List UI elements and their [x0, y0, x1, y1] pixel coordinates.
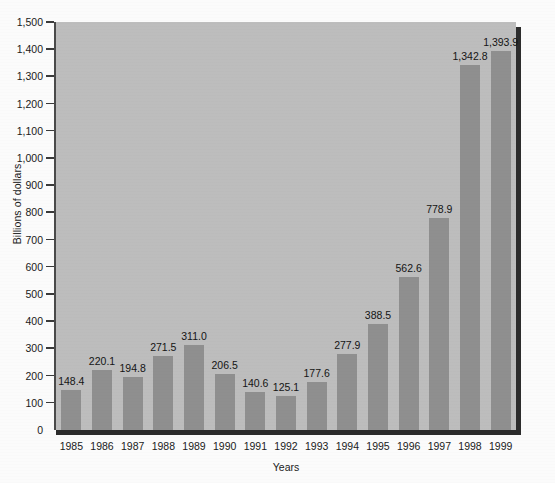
y-axis-tick-mark — [46, 48, 54, 50]
y-axis-tick-mark — [46, 21, 54, 23]
y-axis-tick-mark — [46, 157, 54, 159]
bar — [460, 65, 480, 430]
y-axis-tick-mark — [46, 239, 54, 241]
bar-value-label: 148.4 — [45, 375, 97, 387]
y-axis-tick-label: 1,100 — [17, 125, 43, 137]
bar — [429, 218, 449, 430]
y-axis-tick: 1,200 — [0, 98, 56, 110]
y-axis-tick-mark — [46, 347, 54, 349]
x-axis-title: Years — [56, 461, 516, 473]
y-axis-tick-label: 1,000 — [17, 152, 43, 164]
bar-value-label: 562.6 — [383, 262, 435, 274]
y-axis-tick: 600 — [0, 261, 56, 273]
y-axis-tick: 1,400 — [0, 43, 56, 55]
y-axis-tick: 1,300 — [0, 70, 56, 82]
y-axis-tick: 400 — [0, 315, 56, 327]
bar — [123, 377, 143, 430]
y-axis-tick: 1,100 — [0, 125, 56, 137]
y-axis-tick: 700 — [0, 234, 56, 246]
y-axis-tick: 100 — [0, 397, 56, 409]
y-axis-tick: 500 — [0, 288, 56, 300]
y-axis-tick-mark — [46, 320, 54, 322]
bar-chart: Billions of dollars 01002003004005006007… — [0, 0, 555, 483]
bar — [245, 392, 265, 430]
bar-value-label: 1,393.9 — [475, 36, 527, 48]
bar-value-label: 177.6 — [291, 367, 343, 379]
y-axis-tick-label: 600 — [25, 261, 43, 273]
bar-value-label: 271.5 — [137, 341, 189, 353]
y-axis-tick-label: 1,200 — [17, 98, 43, 110]
y-axis-tick-label: 1,400 — [17, 43, 43, 55]
y-axis-tick: 300 — [0, 342, 56, 354]
x-axis-line — [56, 430, 521, 435]
y-axis-tick: 900 — [0, 179, 56, 191]
bar-value-label: 388.5 — [352, 309, 404, 321]
y-axis-tick-label: 700 — [25, 234, 43, 246]
y-axis-tick-mark — [46, 402, 54, 404]
y-axis-tick-label: 1,500 — [17, 16, 43, 28]
y-axis-tick: 1,000 — [0, 152, 56, 164]
bar-value-label: 206.5 — [199, 359, 251, 371]
y-axis-tick-label: 500 — [25, 288, 43, 300]
y-axis-tick-mark — [46, 103, 54, 105]
y-axis-tick-label: 400 — [25, 315, 43, 327]
plot-right-shadow — [516, 27, 521, 435]
y-axis-tick-label: 100 — [25, 397, 43, 409]
y-axis-tick-mark — [46, 75, 54, 77]
bar — [61, 390, 81, 430]
y-axis-tick-label: 300 — [25, 342, 43, 354]
y-axis-tick-label: 900 — [25, 179, 43, 191]
y-axis-tick-mark — [46, 211, 54, 213]
y-axis-tick-label: 1,300 — [17, 70, 43, 82]
y-axis-tick: 800 — [0, 206, 56, 218]
y-axis-tick-mark — [46, 266, 54, 268]
bar-value-label: 311.0 — [168, 330, 220, 342]
y-axis-tick-mark — [46, 184, 54, 186]
bar-value-label: 277.9 — [321, 339, 373, 351]
y-axis-tick-mark — [46, 293, 54, 295]
bar-value-label: 194.8 — [107, 362, 159, 374]
bar — [491, 51, 511, 430]
y-axis-tick-label: 800 — [25, 206, 43, 218]
y-axis-tick: 1,500 — [0, 16, 56, 28]
bar — [399, 277, 419, 430]
y-axis-tick-label: 0 — [37, 424, 43, 436]
y-axis-tick-label: 200 — [25, 370, 43, 382]
bar-value-label: 125.1 — [260, 381, 312, 393]
bar-value-label: 1,342.8 — [444, 50, 496, 62]
x-axis-tick-label: 1999 — [481, 440, 521, 453]
y-axis-tick: 0 — [0, 424, 56, 436]
bar-value-label: 778.9 — [413, 203, 465, 215]
bar — [276, 396, 296, 430]
y-axis-tick-mark — [46, 130, 54, 132]
